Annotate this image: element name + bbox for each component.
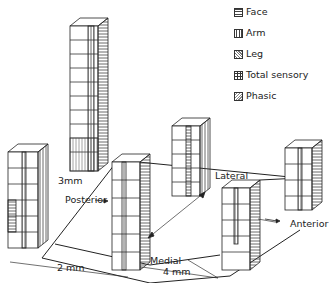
anterior-label: Anterior	[290, 218, 328, 229]
arm-swatch-icon	[234, 29, 243, 38]
dim-2mm-label: 2 mm	[57, 262, 85, 273]
legend-item-total-sensory: Total sensory	[234, 69, 308, 81]
column-center-back	[172, 118, 210, 196]
column-far-left	[8, 144, 48, 248]
lateral-label: Lateral	[215, 170, 248, 181]
legend: Face Arm Leg Total sensory Phasic	[234, 6, 308, 111]
column-right-back	[285, 140, 322, 210]
column-center-front	[112, 154, 150, 270]
total-sensory-swatch-icon	[234, 71, 243, 80]
medial-label: Medial	[150, 255, 181, 266]
leg-swatch-icon	[234, 50, 243, 59]
dim-4mm-label: 4 mm	[163, 266, 191, 277]
legend-item-face: Face	[234, 6, 308, 18]
face-swatch-icon	[234, 8, 243, 17]
column-right-front	[222, 180, 260, 270]
legend-item-leg: Leg	[234, 48, 308, 60]
column-tall	[70, 18, 108, 171]
legend-item-phasic: Phasic	[234, 90, 308, 102]
posterior-label: Posterior	[65, 194, 107, 205]
phasic-swatch-icon	[234, 92, 243, 101]
legend-item-arm: Arm	[234, 27, 308, 39]
dim-3mm-label: 3mm	[58, 175, 83, 186]
